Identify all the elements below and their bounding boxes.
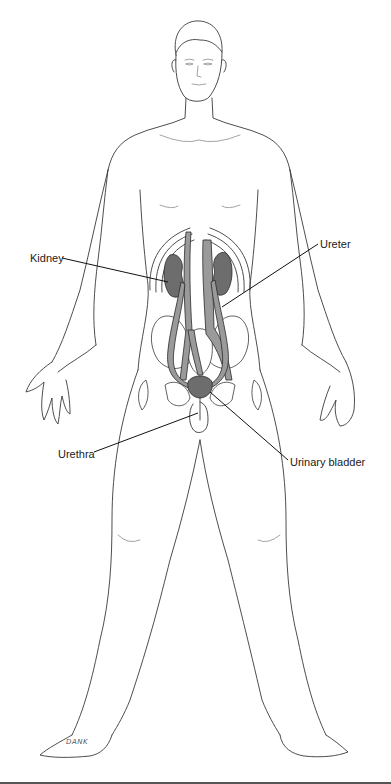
legs <box>40 370 348 757</box>
artist-signature: DANK <box>66 738 88 746</box>
urinary-bladder-shape <box>188 376 213 398</box>
body-outline-drawing <box>0 0 391 784</box>
anatomy-figure: Kidney Ureter Urethra Urinary bladder DA… <box>0 0 391 784</box>
urethra-leader <box>94 413 198 452</box>
kidney-leader <box>62 258 168 282</box>
urethra-label: Urethra <box>58 448 95 460</box>
head <box>172 21 226 101</box>
ureter-label: Ureter <box>320 238 351 250</box>
urinary-bladder-label: Urinary bladder <box>290 456 365 468</box>
kidney-label: Kidney <box>30 252 64 264</box>
kidneys <box>164 252 232 297</box>
